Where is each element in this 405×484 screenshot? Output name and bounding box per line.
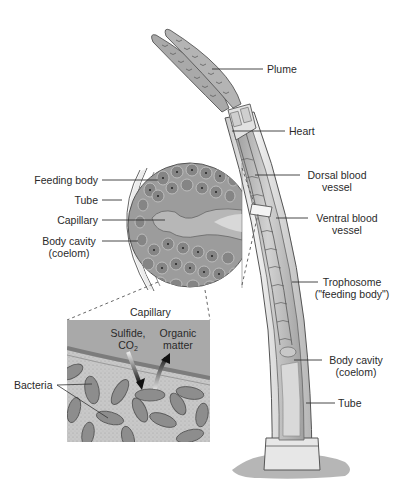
label-tube-worm: Tube (338, 397, 362, 409)
label-heart: Heart (289, 125, 315, 137)
label-organic-matter: Organic matter (154, 327, 202, 351)
label-sulfide-co2: Sulfide, CO2 (106, 327, 150, 355)
tube-worm-diagram: Plume Heart Dorsal blood vessel Ventral … (0, 0, 405, 484)
label-body-cavity-worm: Body cavity (coelom) (324, 354, 388, 378)
label-body-cavity-section: Body cavity (coelom) (38, 235, 100, 259)
label-plume: Plume (267, 63, 297, 75)
cross-section (102, 163, 252, 291)
label-trophosome: Trophosome ("feeding body") (312, 276, 392, 300)
label-capillary-section: Capillary (20, 214, 98, 226)
label-bacteria: Bacteria (14, 379, 53, 391)
label-tube-section: Tube (20, 194, 98, 206)
label-dorsal-blood-vessel: Dorsal blood vessel (303, 169, 371, 193)
label-feeding-body: Feeding body (20, 174, 98, 186)
label-ventral-blood-vessel: Ventral blood vessel (311, 212, 383, 236)
label-capillary-detail: Capillary (130, 306, 171, 318)
